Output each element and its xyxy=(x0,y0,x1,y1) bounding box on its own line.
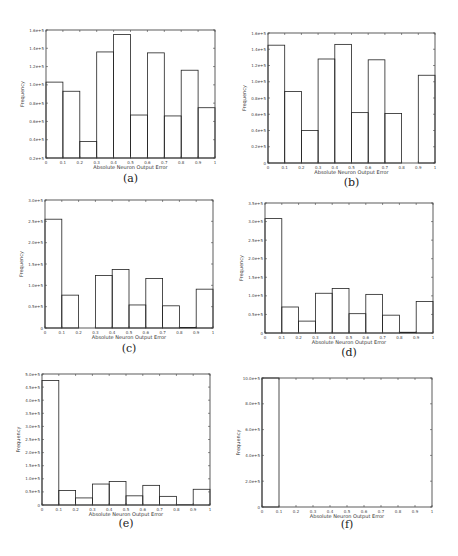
histogram-bar xyxy=(262,378,279,507)
y-tick-label: 1.6e+5 xyxy=(251,31,266,36)
histogram-bar xyxy=(164,116,181,158)
x-tick-label: 1 xyxy=(212,330,215,335)
panel-caption: (e) xyxy=(118,517,133,530)
x-tick-label: 0.8 xyxy=(178,160,185,165)
histogram-bar xyxy=(92,484,109,505)
y-tick-label: 4.0e+5 xyxy=(245,453,260,458)
y-tick-label: 3.0e+5 xyxy=(248,219,263,224)
histogram-bar xyxy=(299,321,316,333)
y-tick-label: 1.2e+5 xyxy=(29,64,44,69)
y-tick-label: 1.0e+5 xyxy=(248,293,263,298)
x-tick-label: 0 xyxy=(264,335,267,340)
x-tick-label: 0.1 xyxy=(282,165,289,170)
y-tick-label: 0.2e+5 xyxy=(251,144,266,149)
x-tick-label: 0.2 xyxy=(75,330,82,335)
y-axis-label: Frequency xyxy=(238,255,245,281)
histogram-panel-c: 00.10.20.30.40.50.60.70.80.9100.5e+51.0e… xyxy=(18,198,215,356)
histogram-panel-a: 00.10.20.30.40.50.60.70.80.910.2e+50.4e+… xyxy=(19,28,217,186)
x-tick-label: 1 xyxy=(432,335,435,340)
y-tick-label: 1.0e+5 xyxy=(25,476,40,481)
panel-caption: (a) xyxy=(123,172,138,185)
histogram-bar xyxy=(335,44,352,163)
y-tick-label: 4.0e+5 xyxy=(25,398,40,403)
panel-caption: (c) xyxy=(122,342,137,355)
histogram-bar xyxy=(114,35,131,158)
x-tick-label: 0.1 xyxy=(279,335,286,340)
histogram-bar xyxy=(193,489,210,505)
y-tick-label: 0.8e+5 xyxy=(29,101,44,106)
y-tick-label: 1.5e+5 xyxy=(248,275,263,280)
y-tick-label: 1.0e+5 xyxy=(29,82,44,87)
x-tick-label: 0.2 xyxy=(72,507,79,512)
x-tick-label: 0 xyxy=(267,165,270,170)
histogram-panel-e: 00.10.20.30.40.50.60.70.80.9100.5e+51.0e… xyxy=(15,372,212,531)
y-tick-label: 1.4e+5 xyxy=(29,46,44,51)
x-tick-label: 0.2 xyxy=(77,160,84,165)
histogram-bar xyxy=(76,498,93,505)
x-tick-label: 0.2 xyxy=(295,335,302,340)
histogram-bar xyxy=(416,301,433,333)
y-tick-label: 3.0e+5 xyxy=(25,424,40,429)
x-tick-label: 1 xyxy=(431,509,434,514)
y-tick-label: 10.0e+5 xyxy=(243,376,261,381)
histogram-bar xyxy=(131,115,148,158)
histogram-bar xyxy=(42,381,59,505)
histogram-bar xyxy=(282,307,299,333)
y-tick-label: 0.4e+5 xyxy=(29,137,44,142)
x-tick-label: 0.8 xyxy=(398,165,405,170)
x-tick-label: 0 xyxy=(261,509,264,514)
histogram-bar xyxy=(265,219,282,333)
y-tick-label: 2.5e+5 xyxy=(248,238,263,243)
histogram-bar xyxy=(198,108,215,158)
x-tick-label: 0.9 xyxy=(412,509,419,514)
histogram-bar xyxy=(147,53,164,158)
histogram-bar xyxy=(63,91,80,158)
histogram-bar xyxy=(163,306,180,328)
x-tick-label: 1 xyxy=(434,165,437,170)
histogram-panel-d: 00.10.20.30.40.50.60.70.80.9100.5e+51.0e… xyxy=(238,201,435,360)
y-axis-label: Frequency xyxy=(15,427,22,453)
histogram-bar xyxy=(146,279,163,328)
y-tick-label: 6.0e+5 xyxy=(245,427,260,432)
histogram-bar xyxy=(160,496,177,505)
y-tick-label: 2.0e+5 xyxy=(248,256,263,261)
y-tick-label: 2.0e+5 xyxy=(28,240,43,245)
y-axis-label: Frequency xyxy=(19,81,26,107)
y-axis-label: Frequency xyxy=(241,85,248,111)
histogram-bar xyxy=(418,75,435,163)
histogram-bar xyxy=(366,294,383,333)
x-tick-label: 0.9 xyxy=(195,160,202,165)
panel-caption: (b) xyxy=(344,176,360,189)
histogram-bar xyxy=(181,70,198,158)
histogram-bar xyxy=(95,276,112,328)
histogram-panel-b: 00.10.20.30.40.50.60.70.80.9100.2e+50.4e… xyxy=(241,31,437,190)
figure: 00.10.20.30.40.50.60.70.80.910.2e+50.4e+… xyxy=(0,0,458,556)
histogram-bar xyxy=(112,270,129,328)
histogram-bar xyxy=(383,315,400,333)
histogram-bar xyxy=(59,491,76,505)
y-tick-label: 0.6e+5 xyxy=(251,112,266,117)
panel-caption: (d) xyxy=(341,346,357,359)
x-tick-label: 0.8 xyxy=(395,509,402,514)
x-tick-label: 0.9 xyxy=(415,165,422,170)
y-tick-label: 1.6e+5 xyxy=(29,28,44,33)
histogram-bar xyxy=(285,92,302,164)
histogram-bar xyxy=(196,289,213,328)
x-tick-label: 0.9 xyxy=(193,330,200,335)
histogram-bar xyxy=(45,219,62,328)
y-tick-label: 2.0e+5 xyxy=(25,450,40,455)
y-tick-label: 0.2e+5 xyxy=(29,156,44,161)
histogram-bar xyxy=(268,45,285,163)
x-axis-label: Absolute Neuron Output Error xyxy=(312,339,387,346)
y-tick-label: 1.0e+5 xyxy=(28,283,43,288)
x-tick-label: 0.9 xyxy=(190,507,197,512)
histogram-bar xyxy=(143,485,160,505)
y-tick-label: 1.5e+5 xyxy=(25,463,40,468)
histogram-bar xyxy=(109,481,126,505)
histogram-bar xyxy=(318,59,335,163)
x-tick-label: 1 xyxy=(214,160,217,165)
y-tick-label: 8.0e+5 xyxy=(245,401,260,406)
y-tick-label: 0.5e+5 xyxy=(248,312,263,317)
y-tick-label: 0.5e+5 xyxy=(28,304,43,309)
y-tick-label: 3.5e+5 xyxy=(25,411,40,416)
